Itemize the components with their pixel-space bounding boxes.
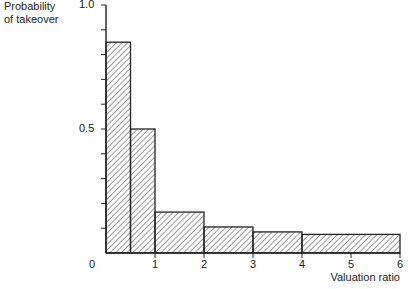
histogram-bar xyxy=(204,227,253,253)
x-tick-label: 0 xyxy=(89,258,95,270)
x-tick-label: 5 xyxy=(348,258,354,270)
x-axis-label: Valuation ratio xyxy=(330,271,400,283)
bars-group xyxy=(106,42,400,253)
histogram-bar xyxy=(302,234,400,253)
histogram-chart xyxy=(0,0,408,289)
x-tick-label: 3 xyxy=(250,258,256,270)
x-tick-label: 1 xyxy=(152,258,158,270)
x-tick-label: 4 xyxy=(299,258,305,270)
histogram-bar xyxy=(131,129,156,253)
y-tick-label: 0.5 xyxy=(79,122,94,134)
y-tick-label: 1.0 xyxy=(79,0,94,10)
x-tick-label: 6 xyxy=(397,258,403,270)
x-tick-label: 2 xyxy=(201,258,207,270)
histogram-bar xyxy=(155,212,204,253)
histogram-bar xyxy=(106,42,131,253)
histogram-bar xyxy=(253,232,302,253)
